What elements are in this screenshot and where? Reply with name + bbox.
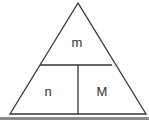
formula-triangle-diagram: m n M (0, 0, 149, 125)
label-top-m: m (72, 35, 83, 50)
bottom-divider-bar (0, 117, 149, 120)
label-bottom-left-n: n (44, 84, 51, 99)
triangle-svg: m n M (0, 0, 149, 125)
label-bottom-right-M: M (97, 84, 108, 99)
